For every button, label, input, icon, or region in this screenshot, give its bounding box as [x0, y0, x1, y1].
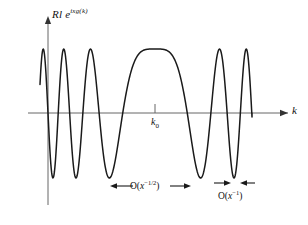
oscillation-period-annotation: O(x−1): [218, 190, 242, 202]
oscillation-period-prefix: O(: [218, 191, 228, 201]
k0-label-subscript: 0: [155, 122, 159, 130]
x-axis-arrowhead: [280, 110, 288, 116]
central-width-suffix: ): [156, 181, 159, 191]
k0-label: k0: [151, 117, 159, 130]
oscillation-period-suffix: ): [239, 191, 242, 201]
y-axis-label-text: Rl e: [52, 8, 70, 20]
x-axis: [28, 110, 288, 116]
central-width-prefix: O(: [130, 181, 140, 191]
oscillation-period-arrow: [214, 180, 255, 185]
y-axis-label-exponent: ixg(k): [70, 7, 88, 15]
y-axis-label: Rl eixg(k): [52, 8, 88, 20]
central-width-annotation: O(x−1/2): [130, 180, 159, 192]
x-axis-label: k: [292, 105, 297, 116]
central-width-exponent: −1/2: [144, 179, 156, 186]
y-axis-arrowhead: [45, 16, 51, 24]
figure-container: Rl eixg(k) k k0 O(x−1/2) O(x−1): [0, 0, 308, 225]
